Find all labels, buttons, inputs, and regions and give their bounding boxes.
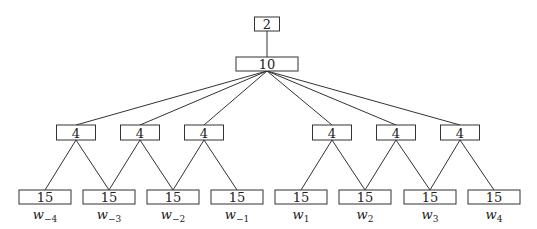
level2-node-3: 4: [313, 125, 352, 141]
leaf-node-0: 15: [19, 190, 71, 205]
edge-level2-3-to-leaf-5: [332, 140, 365, 190]
edge-level2-0-to-leaf-1: [76, 140, 109, 190]
leaf-node-6: 15: [404, 190, 456, 205]
level2-node-0-value: 4: [72, 126, 80, 141]
edge-level2-0-to-leaf-0: [45, 140, 76, 190]
leaf-node-5-value: 15: [357, 190, 374, 205]
leaf-node-2: 15: [147, 190, 199, 205]
leaf-node-7-value: 15: [486, 190, 503, 205]
leaf-label-7: w4: [486, 207, 503, 224]
leaf-node-6-value: 15: [422, 190, 439, 205]
edge-level1-to-level2-4: [267, 71, 396, 125]
leaf-node-2-value: 15: [165, 190, 182, 205]
leaf-node-1: 15: [83, 190, 135, 205]
edge-level1-to-level2-2: [204, 71, 267, 125]
leaf-node-4: 15: [275, 190, 327, 205]
leaf-node-7: 15: [468, 190, 520, 205]
level2-node-2: 4: [185, 125, 224, 141]
edges: [45, 31, 494, 190]
leaf-label-4: w1: [293, 207, 310, 224]
edge-level2-3-to-leaf-4: [301, 140, 332, 190]
level2-node-5-value: 4: [456, 126, 464, 141]
tree-diagram: 2104444441515151515151515 w−4w−3w−2w−1w1…: [0, 0, 537, 229]
edge-level2-2-to-leaf-2: [173, 140, 204, 190]
leaf-label-6: w3: [422, 207, 439, 224]
level2-node-4: 4: [377, 125, 416, 141]
edge-level1-to-level2-5: [267, 71, 460, 125]
leaf-node-0-value: 15: [37, 190, 54, 205]
level2-node-3-value: 4: [328, 126, 336, 141]
root-node: 2: [255, 17, 280, 32]
leaf-node-3: 15: [211, 190, 263, 205]
level2-node-5: 4: [441, 125, 480, 141]
edge-level1-to-level2-3: [267, 71, 332, 125]
leaf-label-2: w−2: [161, 207, 185, 224]
leaf-node-3-value: 15: [229, 190, 246, 205]
level2-node-4-value: 4: [392, 126, 400, 141]
leaf-label-3: w−1: [225, 207, 249, 224]
edge-level1-to-level2-1: [140, 71, 267, 125]
leaf-label-1: w−3: [97, 207, 122, 224]
edge-level2-5-to-leaf-7: [460, 140, 494, 190]
nodes: 2104444441515151515151515: [19, 17, 520, 205]
level2-node-1-value: 4: [136, 126, 144, 141]
level1-node: 10: [236, 57, 298, 72]
edge-level2-1-to-leaf-2: [140, 140, 173, 190]
edge-level2-2-to-leaf-3: [204, 140, 237, 190]
leaf-node-5: 15: [339, 190, 391, 205]
leaf-label-0: w−4: [33, 207, 58, 224]
leaf-label-5: w2: [357, 207, 374, 224]
level2-node-0: 4: [57, 125, 96, 141]
leaf-node-4-value: 15: [293, 190, 310, 205]
level1-node-value: 10: [259, 57, 276, 72]
edge-level1-to-level2-0: [76, 71, 267, 125]
edge-level2-4-to-leaf-5: [365, 140, 396, 190]
level2-node-2-value: 4: [200, 126, 208, 141]
leaf-node-1-value: 15: [101, 190, 118, 205]
edge-level2-5-to-leaf-6: [430, 140, 460, 190]
root-node-value: 2: [263, 17, 271, 32]
leaf-labels: w−4w−3w−2w−1w1w2w3w4: [33, 207, 503, 224]
edge-level2-4-to-leaf-6: [396, 140, 430, 190]
level2-node-1: 4: [121, 125, 160, 141]
edge-level2-1-to-leaf-1: [109, 140, 140, 190]
